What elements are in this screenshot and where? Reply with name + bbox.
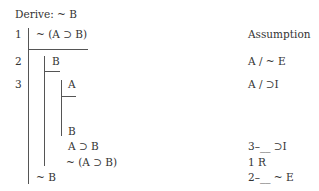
line-number-2: 2 [15,55,22,67]
line-number-3: 3 [15,78,22,90]
justification-line-6: 1 R [248,156,266,168]
formula-line-1: ~ (A ⊃ B) [36,28,87,40]
subproof-2-assumption-divider [44,71,60,72]
formula-line-3: A [68,78,76,90]
formula-line-6: ~ (A ⊃ B) [66,156,117,168]
formula-line-7: ~ B [36,171,56,183]
justification-line-5: 3–__ ⊃I [248,140,287,152]
subproof-2-scope-line [44,56,45,166]
formula-line-4: B [68,125,76,137]
derive-goal: Derive: ~ B [15,8,77,20]
subproof-3-scope-line [61,80,62,136]
premise-divider [28,49,88,50]
main-scope-line [28,28,29,184]
formula-line-2: B [52,55,60,67]
justification-line-3: A / ⊃I [248,78,279,90]
justification-line-7: 2–__ ~ E [248,171,294,183]
subproof-3-assumption-divider [61,96,76,97]
formula-line-5: A ⊃ B [68,140,99,152]
justification-line-2: A / ~ E [248,55,286,67]
justification-line-1: Assumption [248,28,310,40]
line-number-1: 1 [15,28,22,40]
